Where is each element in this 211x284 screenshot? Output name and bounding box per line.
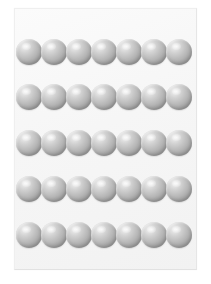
sphere[interactable] — [116, 39, 142, 65]
sphere[interactable] — [116, 176, 142, 202]
sphere-row — [15, 39, 197, 65]
sphere[interactable] — [66, 130, 92, 156]
sphere[interactable] — [141, 176, 167, 202]
sphere[interactable] — [116, 84, 142, 110]
sphere[interactable] — [91, 176, 117, 202]
sphere-row — [15, 130, 197, 156]
sphere[interactable] — [141, 84, 167, 110]
sphere[interactable] — [116, 222, 142, 248]
sphere[interactable] — [166, 222, 192, 248]
sphere-row — [15, 176, 197, 202]
sphere[interactable] — [16, 222, 42, 248]
sphere[interactable] — [166, 84, 192, 110]
sphere[interactable] — [166, 130, 192, 156]
sphere-row — [15, 222, 197, 248]
sphere[interactable] — [41, 222, 67, 248]
sphere[interactable] — [91, 222, 117, 248]
sphere[interactable] — [16, 130, 42, 156]
sphere[interactable] — [166, 39, 192, 65]
sphere[interactable] — [116, 130, 142, 156]
sphere-panel — [14, 8, 197, 270]
scene-stage — [0, 0, 211, 284]
sphere[interactable] — [16, 39, 42, 65]
sphere[interactable] — [16, 176, 42, 202]
sphere[interactable] — [141, 130, 167, 156]
sphere[interactable] — [91, 39, 117, 65]
sphere[interactable] — [66, 222, 92, 248]
sphere[interactable] — [41, 130, 67, 156]
sphere[interactable] — [66, 39, 92, 65]
sphere[interactable] — [16, 84, 42, 110]
sphere[interactable] — [66, 84, 92, 110]
sphere[interactable] — [66, 176, 92, 202]
sphere[interactable] — [41, 84, 67, 110]
sphere[interactable] — [141, 39, 167, 65]
sphere[interactable] — [91, 130, 117, 156]
sphere-row — [15, 84, 197, 110]
sphere[interactable] — [41, 39, 67, 65]
sphere[interactable] — [166, 176, 192, 202]
sphere[interactable] — [91, 84, 117, 110]
sphere[interactable] — [141, 222, 167, 248]
sphere[interactable] — [41, 176, 67, 202]
